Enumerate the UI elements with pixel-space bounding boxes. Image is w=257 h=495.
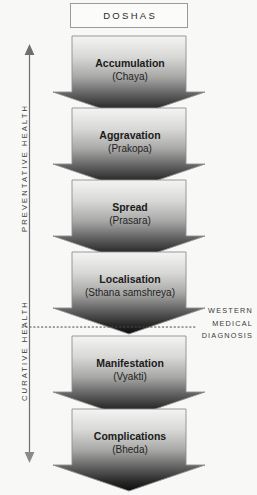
stage-arrow-aggravation: [53, 108, 205, 190]
diagram-canvas: [0, 0, 257, 495]
arrow-up-icon: [25, 44, 35, 55]
stage-arrow-accumulation: [53, 36, 205, 118]
arrow-down-icon: [25, 452, 35, 463]
stage-arrow-complications: [53, 409, 205, 491]
stage-arrow-spread: [53, 180, 205, 262]
health-phase-axis: [25, 44, 35, 463]
doshas-progression-diagram: DOSHAS Accumulation (Chaya) Aggravation …: [0, 0, 257, 495]
stage-arrow-manifestation: [53, 336, 205, 418]
stage-arrow-localisation: [53, 252, 205, 334]
